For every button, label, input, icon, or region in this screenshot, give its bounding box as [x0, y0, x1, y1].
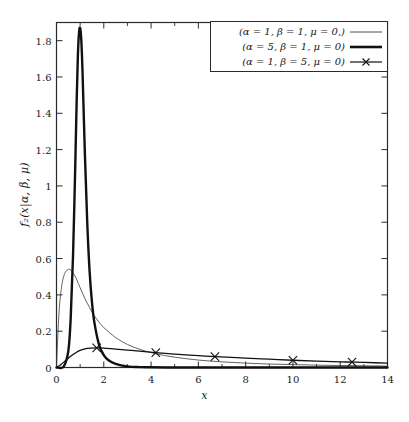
- y-tick-label: 1: [12, 180, 52, 191]
- x-tick-label: 0: [53, 374, 59, 385]
- x-tick-label: 12: [334, 374, 347, 385]
- y-tick-label: 0.2: [12, 326, 52, 337]
- y-tick-label: 0.8: [12, 217, 52, 228]
- y-tick-label: 0.4: [12, 289, 52, 300]
- y-tick-label: 0.6: [12, 253, 52, 264]
- y-tick-label: 1.8: [12, 35, 52, 46]
- marked-line-swatch: [349, 56, 383, 68]
- y-tick-label: 1.2: [12, 144, 52, 155]
- x-tick-label: 8: [242, 374, 248, 385]
- y-axis-label: f₂(x|α, β, μ): [18, 115, 31, 275]
- x-tick-label: 14: [381, 374, 394, 385]
- thick-line-swatch: [349, 41, 383, 53]
- gamma-pdf-chart: x f₂(x|α, β, μ) 0246810121400.20.40.60.8…: [0, 0, 409, 422]
- y-tick-label: 1.6: [12, 71, 52, 82]
- x-axis-label: x: [0, 389, 409, 402]
- legend-item: (α = 1, β = 1, μ = 0,): [211, 24, 383, 39]
- x-tick-label: 6: [195, 374, 201, 385]
- x-tick-label: 10: [287, 374, 300, 385]
- thin-line-swatch: [349, 26, 383, 38]
- y-tick-label: 0: [12, 362, 52, 373]
- legend-item-label: (α = 1, β = 5, μ = 0): [242, 56, 345, 67]
- chart-legend: (α = 1, β = 1, μ = 0,) (α = 5, β = 1, μ …: [210, 21, 388, 72]
- y-tick-label: 1.4: [12, 108, 52, 119]
- legend-item-label: (α = 1, β = 1, μ = 0,): [239, 26, 345, 37]
- legend-item: (α = 1, β = 5, μ = 0): [211, 54, 383, 69]
- legend-item-label: (α = 5, β = 1, μ = 0): [242, 41, 345, 52]
- x-tick-label: 4: [148, 374, 154, 385]
- legend-item: (α = 5, β = 1, μ = 0): [211, 39, 383, 54]
- x-tick-label: 2: [101, 374, 107, 385]
